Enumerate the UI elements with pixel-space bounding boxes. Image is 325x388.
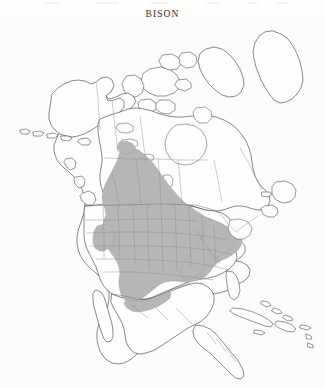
map-canvas: [0, 20, 325, 388]
scan-artifact-strip: [0, 0, 325, 6]
north-america-map-svg: [0, 20, 325, 388]
range-map-page: BISON: [0, 0, 325, 388]
paper-grain: [0, 20, 325, 388]
page-title: BISON: [0, 9, 325, 20]
